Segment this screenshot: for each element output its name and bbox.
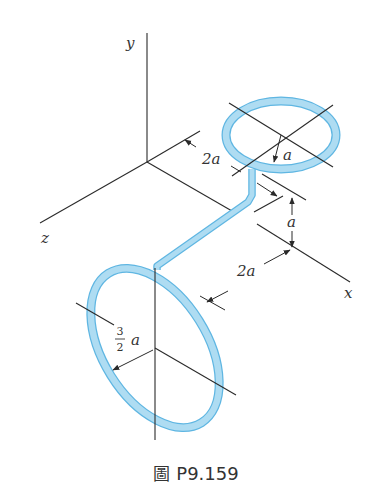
y-axis-label: y: [125, 34, 135, 52]
top-radius-label: a: [283, 146, 292, 164]
origin-to-x-line: [147, 162, 232, 211]
lower-2a-dimension: [200, 250, 290, 310]
2a-ref-line-upper: [147, 131, 200, 162]
svg-text:2: 2: [117, 341, 124, 354]
vertical-a-label: a: [287, 213, 296, 231]
z-axis-label: z: [40, 229, 49, 247]
upper-2a-label: 2a: [201, 150, 221, 168]
lower-2a-label: 2a: [236, 262, 256, 280]
caption-id: P9.159: [176, 463, 238, 484]
coordinate-axes: [40, 33, 232, 223]
z-axis: [40, 162, 147, 223]
connecting-pipe: [157, 169, 252, 270]
figure-caption: 圖P9.159: [0, 460, 392, 485]
diagram-canvas: y z a 2a a: [0, 0, 392, 504]
bottom-radius-label: 3 2 a: [115, 325, 140, 354]
svg-text:a: a: [131, 331, 140, 349]
caption-prefix: 圖: [153, 464, 170, 484]
x-axis-label: x: [344, 284, 353, 302]
svg-text:3: 3: [117, 325, 124, 338]
top-radius-arrow: [274, 135, 281, 162]
